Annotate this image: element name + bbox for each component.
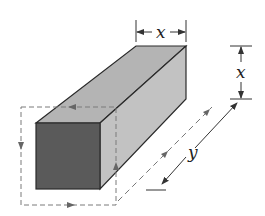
side-height-label: x xyxy=(236,62,246,82)
prism-front-face xyxy=(36,123,100,189)
prism-diagram: x x y xyxy=(0,0,265,216)
diagram-canvas: x x y xyxy=(0,0,265,216)
top-width-label: x xyxy=(156,22,166,42)
length-label: y xyxy=(187,142,198,162)
